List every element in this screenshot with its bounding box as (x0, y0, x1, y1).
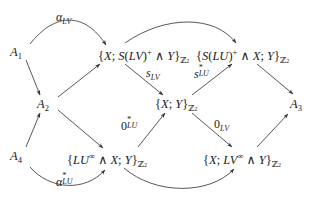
label-sub: LV (151, 73, 160, 82)
z-sub-2: 2 (286, 58, 289, 64)
label-sub: LU (199, 67, 209, 81)
label-s-lv: sLV (146, 66, 160, 85)
var-x: X (209, 153, 217, 167)
node-a1-base: A (10, 45, 18, 59)
node-a4-sub: 4 (18, 155, 22, 165)
z2-subscript: ℤ2 (280, 55, 289, 65)
z-sub-2: 2 (194, 106, 197, 112)
label-alpha-lu-star: α*LU (56, 172, 74, 189)
arrow-bottomright-to-a3 (257, 114, 288, 147)
var-y: Y (259, 153, 266, 167)
node-x-lvinf-y: {X; LV∞ ∧ Y}ℤ2 (203, 149, 281, 172)
z2-subscript: ℤ2 (180, 55, 189, 65)
node-a2-base: A (37, 97, 45, 111)
var-x: X (110, 153, 118, 167)
var-lu: LU (212, 49, 228, 63)
wedge-symbol: ∧ (243, 153, 258, 167)
node-a4: A4 (10, 149, 22, 167)
node-x-y-center: {X; Y}ℤ2 (155, 97, 197, 116)
node-a2-sub: 2 (45, 103, 49, 113)
node-a3-base: A (290, 97, 298, 111)
node-a1: A1 (10, 45, 22, 63)
wedge-symbol: ∧ (237, 49, 252, 63)
arrow-bottommid-to-center (138, 113, 165, 147)
separator: ; (118, 153, 125, 167)
z2-subscript: ℤ2 (188, 103, 197, 113)
arrow-a2-to-bottommid (58, 110, 103, 148)
label-zero-lv: 0LV (214, 117, 229, 136)
arrow-topright-to-a3 (257, 64, 293, 94)
z-sub-2: 2 (186, 58, 189, 64)
commutative-diagram: A1 {X; S(LV)+ ∧ Y}ℤ2 {S(LU)+ ∧ X; Y}ℤ2 A… (0, 0, 319, 203)
node-a1-sub: 1 (18, 51, 22, 61)
label-sub: LV (62, 17, 71, 26)
arrow-a1-to-a2 (26, 60, 40, 95)
node-x-slv-y: {X; S(LV)+ ∧ Y}ℤ2 (98, 45, 189, 68)
arrow-a4-to-a2 (26, 113, 40, 147)
node-a4-base: A (10, 149, 18, 163)
label-alpha-lv: αLV (56, 10, 71, 29)
var-lu: LU (73, 153, 89, 167)
wedge-symbol: ∧ (95, 153, 110, 167)
var-lv: LV (223, 153, 237, 167)
z2-subscript: ℤ2 (138, 159, 147, 169)
node-a2: A2 (37, 97, 49, 115)
label-zero-lu-star: 0*LU (121, 116, 139, 133)
arrow-topmid-to-topright (125, 22, 236, 43)
node-a3-sub: 3 (298, 103, 302, 113)
label-s-lu-star: s*LU (194, 64, 211, 81)
wedge-symbol: ∧ (152, 49, 167, 63)
label-sub: LU (127, 119, 137, 133)
label-sub: LV (220, 124, 229, 133)
label-sub: LU (62, 175, 72, 189)
node-a3: A3 (290, 97, 302, 115)
arrow-a2-to-topmid (58, 64, 100, 97)
var-lv: LV (129, 49, 143, 63)
var-x: X (161, 97, 169, 111)
z-sub-2: 2 (144, 162, 147, 168)
z2-subscript: ℤ2 (272, 159, 281, 169)
var-x: X (104, 49, 112, 63)
z-sub-2: 2 (278, 162, 281, 168)
node-luinf-x-y: {LU∞ ∧ X; Y}ℤ2 (67, 149, 147, 172)
var-y: Y (267, 49, 274, 63)
var-y: Y (125, 153, 132, 167)
